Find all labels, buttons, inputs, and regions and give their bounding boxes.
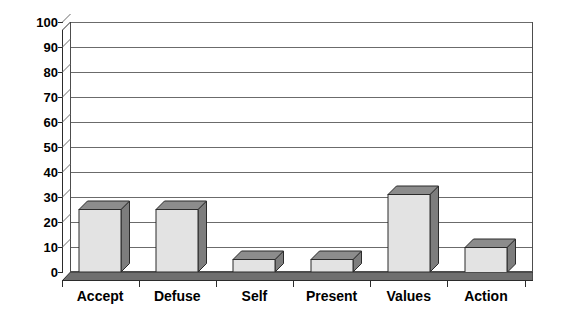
y-tick-connector-20 [62,214,71,223]
x-axis-label-present: Present [293,289,370,304]
bar-defuse[interactable] [156,201,207,272]
y-tick-connector-80 [62,64,71,73]
plot-area [70,22,533,272]
x-axis-label-accept: Accept [62,289,139,304]
gridline-50 [71,147,532,148]
y-tick-connector-100 [62,14,71,23]
y-axis-label-40: 40 [14,166,58,179]
x-axis-label-self: Self [216,289,293,304]
y-tick-connector-60 [62,114,71,123]
x-axis-label-action: Action [447,289,524,304]
gridline-100 [71,22,532,23]
y-axis-label-60: 60 [14,116,58,129]
gridline-30 [71,197,532,198]
gridline-20 [71,222,532,223]
y-tick-connector-40 [62,164,71,173]
y-axis-label-30: 30 [14,191,58,204]
y-axis-labels: 0102030405060708090100 [0,0,58,317]
bar-values[interactable] [388,186,439,272]
bar-self[interactable] [233,251,284,272]
y-axis-label-50: 50 [14,141,58,154]
y-axis-label-90: 90 [14,41,58,54]
x-axis-label-defuse: Defuse [139,289,216,304]
gridline-40 [71,172,532,173]
y-axis-label-10: 10 [14,241,58,254]
y-axis-depth-connector [62,22,71,31]
x-tick-mark-0 [139,280,140,287]
x-tick-mark-3 [370,280,371,287]
x-axis-line [62,280,533,281]
chart-screenshot: 0102030405060708090100 AcceptDefuseSelfP… [0,0,563,317]
gridline-60 [71,122,532,123]
x-tick-mark-4 [447,280,448,287]
y-axis-label-100: 100 [14,16,58,29]
gridline-10 [71,247,532,248]
bar-present[interactable] [311,251,362,272]
bar-chart: 0102030405060708090100 AcceptDefuseSelfP… [0,0,563,317]
y-axis-label-0: 0 [14,266,58,279]
y-tick-connector-50 [62,139,71,148]
x-tick-mark-5 [525,280,526,287]
gridline-90 [71,47,532,48]
bar-accept[interactable] [79,201,130,272]
y-axis-label-20: 20 [14,216,58,229]
y-tick-connector-30 [62,189,71,198]
bar-action[interactable] [465,239,516,273]
y-tick-connector-90 [62,39,71,48]
y-tick-connector-10 [62,239,71,248]
x-axis-label-values: Values [370,289,447,304]
x-tick-mark-1 [216,280,217,287]
y-tick-connector-70 [62,89,71,98]
y-axis-label-70: 70 [14,91,58,104]
gridline-80 [71,72,532,73]
x-tick-mark-2 [293,280,294,287]
gridline-70 [71,97,532,98]
y-axis-label-80: 80 [14,66,58,79]
x-tick-mark-origin [62,280,63,287]
